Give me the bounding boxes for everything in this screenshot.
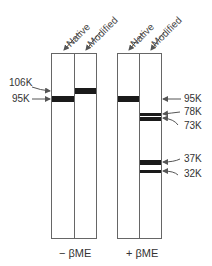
band-native-95k [52, 96, 74, 102]
marker-78k: 78K [184, 106, 202, 117]
arrows-layer [0, 0, 212, 266]
marker-106k: 106K [9, 77, 32, 88]
band-modified-73k [140, 117, 161, 121]
band-modified-106k [75, 88, 96, 94]
marker-32k: 32K [184, 168, 202, 179]
condition-minus-bme: − βME [59, 247, 91, 259]
band-modified-78k [140, 113, 161, 116]
gel-plus-bme [117, 53, 162, 239]
marker-37k: 37K [184, 153, 202, 164]
band-native-95k [118, 96, 139, 102]
lane-divider [74, 54, 75, 238]
gel-minus-bme [51, 53, 97, 239]
marker-95k-left: 95K [12, 93, 30, 104]
band-modified-37k [140, 160, 161, 165]
marker-95k-right: 95K [184, 93, 202, 104]
band-modified-32k [140, 170, 161, 173]
condition-plus-bme: + βME [126, 247, 158, 259]
lane-divider [139, 54, 140, 238]
marker-73k: 73K [184, 120, 202, 131]
